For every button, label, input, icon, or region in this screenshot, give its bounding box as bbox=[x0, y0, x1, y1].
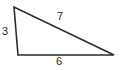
side-label-hypotenuse: 7 bbox=[57, 11, 63, 22]
triangle-outline bbox=[14, 7, 114, 55]
side-label-left: 3 bbox=[2, 26, 8, 37]
side-label-base: 6 bbox=[56, 56, 62, 67]
triangle-figure: 3 7 6 bbox=[0, 0, 121, 70]
